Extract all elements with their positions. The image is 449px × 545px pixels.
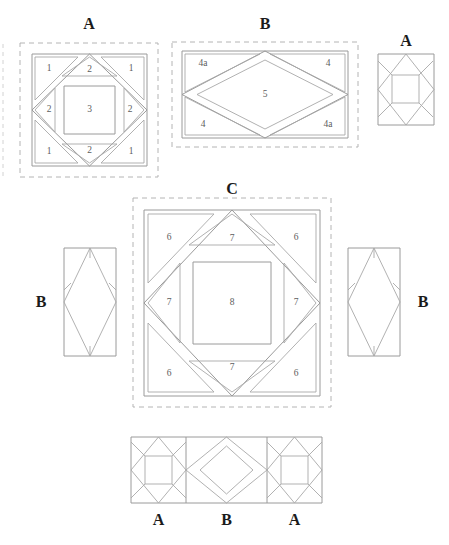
assembly-cell-a-right <box>267 437 322 503</box>
assembly-cell-a-left <box>131 437 186 503</box>
block-a-main-num-corner-br: 1 <box>129 146 134 156</box>
assembly-strip-label-1: B <box>221 511 232 528</box>
diagram-canvas: A 1 1 1 1 2 2 2 2 <box>0 0 449 545</box>
block-c-main-num-corner-bl: 6 <box>167 368 172 378</box>
block-c-main-num-edge-top: 7 <box>230 233 235 243</box>
block-b-left: B <box>36 248 116 356</box>
block-c-main-edge-left-piece <box>148 263 180 343</box>
block-b-right-outline <box>348 248 400 356</box>
block-a-main: A 1 1 1 1 2 2 2 2 <box>20 15 158 177</box>
block-c-main-num-corner-br: 6 <box>294 368 299 378</box>
assembly-cell-a-left-center-square <box>145 456 172 484</box>
block-b-right: B <box>348 248 429 356</box>
block-a-main-label: A <box>83 15 95 32</box>
block-c-main-corner-bl-piece <box>148 323 214 392</box>
block-a-main-corner-bl-piece <box>35 120 78 163</box>
block-a-small-label: A <box>400 32 412 49</box>
assembly-strip: A B A <box>131 437 322 528</box>
block-b-main-num-center: 5 <box>263 89 268 99</box>
assembly-strip-label-2: A <box>289 511 301 528</box>
block-c-main-corner-tr-piece <box>250 214 316 283</box>
block-c-main-num-corner-tr: 6 <box>294 232 299 242</box>
block-a-main-num-corner-bl: 1 <box>47 146 52 156</box>
assembly-cell-b-inner-diamond <box>200 446 253 494</box>
block-b-left-label: B <box>36 293 47 310</box>
assembly-cell-a-right-diamond <box>267 437 322 503</box>
block-c-main-edge-right-piece <box>284 263 316 343</box>
block-a-small-diamond <box>378 54 434 125</box>
assembly-strip-label-0: A <box>153 511 165 528</box>
block-c-main-label: C <box>226 180 238 197</box>
block-b-main: B 4a 4 4 4a 5 <box>172 15 358 147</box>
block-b-main-corner-br-piece <box>270 97 345 135</box>
block-c-main-corner-br-piece <box>250 323 316 392</box>
block-a-main-corner-tl-piece <box>35 57 78 100</box>
block-b-right-diamond <box>348 248 400 356</box>
block-a-main-num-edge-bottom: 2 <box>87 145 92 155</box>
block-c-main: C 6 6 6 6 7 7 7 7 8 <box>133 180 331 407</box>
block-b-main-corner-tl-piece <box>185 54 260 92</box>
block-a-main-num-edge-left: 2 <box>47 104 52 114</box>
block-a-main-num-center: 3 <box>87 104 92 114</box>
block-b-main-num-corner-bl: 4 <box>201 119 206 129</box>
block-b-main-corner-tr-piece <box>270 54 345 92</box>
assembly-cell-b <box>186 437 267 503</box>
block-b-main-num-corner-br: 4a <box>324 119 334 129</box>
block-b-main-num-corner-tl: 4a <box>199 58 209 68</box>
block-b-main-num-corner-tr: 4 <box>326 58 331 68</box>
block-a-small-outline <box>378 54 434 125</box>
block-c-main-num-edge-bottom: 7 <box>230 362 235 372</box>
block-b-left-diamond <box>64 248 116 356</box>
block-b-main-corner-bl-piece <box>185 97 260 135</box>
block-a-main-num-edge-right: 2 <box>128 104 133 114</box>
block-c-main-num-edge-left: 7 <box>167 297 172 307</box>
block-b-main-label: B <box>260 15 271 32</box>
assembly-cell-b-outer-diamond <box>186 437 267 503</box>
block-c-main-corner-tl-piece <box>148 214 214 283</box>
block-a-main-corner-tr-piece <box>101 57 144 100</box>
assembly-strip-outline <box>131 437 322 503</box>
block-a-main-corner-br-piece <box>101 120 144 163</box>
block-a-main-num-edge-top: 2 <box>87 64 92 74</box>
block-a-small: A <box>378 32 434 125</box>
block-c-main-num-center: 8 <box>230 297 235 307</box>
block-a-main-num-corner-tl: 1 <box>47 63 52 73</box>
block-c-main-num-edge-right: 7 <box>294 297 299 307</box>
block-b-right-label: B <box>418 293 429 310</box>
block-a-main-num-corner-tr: 1 <box>129 63 134 73</box>
assembly-cell-a-left-diamond <box>131 437 186 503</box>
block-a-main-edge-left-piece <box>35 88 55 132</box>
block-b-left-outline <box>64 248 116 356</box>
block-c-main-num-corner-tl: 6 <box>167 232 172 242</box>
assembly-cell-a-right-center-square <box>281 456 308 484</box>
quilt-piecing-diagram: A 1 1 1 1 2 2 2 2 <box>0 0 449 545</box>
block-a-small-center-square <box>392 75 419 103</box>
